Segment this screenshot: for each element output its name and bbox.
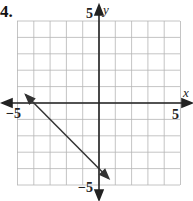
plotted-line (26, 95, 109, 179)
y-min-label: −5 (78, 180, 93, 195)
x-max-label: 5 (172, 107, 179, 122)
y-max-label: 5 (86, 6, 93, 21)
coordinate-graph: y x 5 −5 −5 5 (0, 0, 193, 201)
x-min-label: −5 (6, 106, 21, 121)
y-axis-label: y (101, 2, 109, 17)
x-axis-label: x (182, 85, 189, 100)
